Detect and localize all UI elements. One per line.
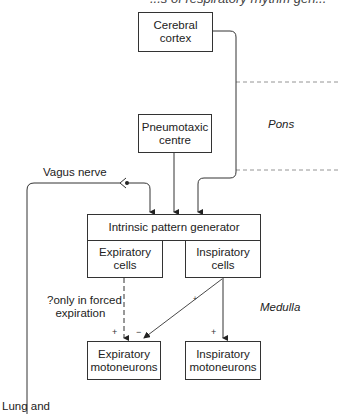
expiratory-plus-sign: + xyxy=(112,328,117,337)
vagus-to-generator-line xyxy=(127,183,150,212)
forced-expiration-line2: expiration xyxy=(39,307,122,320)
inspiratory-plus-sign: + xyxy=(211,328,216,337)
expiratory-motoneurons-label: Expiratory motoneurons xyxy=(90,348,157,374)
intrinsic-pattern-generator-label: Intrinsic pattern generator xyxy=(108,221,239,234)
expiratory-motoneurons-box: Expiratory motoneurons xyxy=(87,341,161,380)
pneumotaxic-centre-box: Pneumotaxic centre xyxy=(138,114,212,153)
pneumotaxic-centre-label: Pneumotaxic centre xyxy=(142,121,208,147)
inspiratory-motoneurons-label: Inspiratory motoneurons xyxy=(189,348,256,374)
pons-label: Pons xyxy=(268,118,294,131)
forced-expiration-note: ?only in forced expiration xyxy=(47,294,122,320)
lung-and-label: Lung and xyxy=(2,400,50,413)
medulla-label: Medulla xyxy=(260,301,300,314)
inspiratory-cells-label: Inspiratory cells xyxy=(196,246,250,272)
top-partial-caption: ...s of respiratory rhythm gen... xyxy=(150,0,326,6)
expiratory-cells-label: Expiratory cells xyxy=(99,246,151,272)
vagus-nerve-label: Vagus nerve xyxy=(43,166,107,179)
diagonal-plus-sign: + xyxy=(193,294,197,303)
intrinsic-pattern-generator-box: Intrinsic pattern generator xyxy=(87,214,261,241)
expiratory-cells-box: Expiratory cells xyxy=(87,240,163,278)
expiratory-minus-sign: − xyxy=(136,328,141,337)
forced-expiration-line1: ?only in forced xyxy=(47,294,122,307)
cerebral-cortex-box: Cerebral cortex xyxy=(138,12,213,52)
connection-lines xyxy=(0,0,344,414)
inspiratory-motoneurons-box: Inspiratory motoneurons xyxy=(185,341,261,380)
cerebral-cortex-label: Cerebral cortex xyxy=(153,19,197,45)
inspiratory-cells-box: Inspiratory cells xyxy=(185,240,261,278)
